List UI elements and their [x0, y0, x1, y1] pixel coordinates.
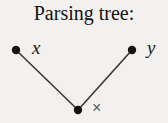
node-operator-root-dot — [74, 106, 82, 114]
edge-root-to-right-operand — [78, 50, 132, 110]
node-label-left-operand: x — [32, 38, 40, 57]
parsing-tree-figure: Parsing tree: x y × — [0, 0, 168, 123]
node-right-operand-dot — [128, 46, 136, 54]
parsing-tree-graph — [0, 0, 168, 123]
node-label-right-operand: y — [147, 38, 155, 57]
node-label-operator-root: × — [92, 100, 101, 116]
edge-root-to-left-operand — [16, 50, 78, 110]
node-left-operand-dot — [12, 46, 20, 54]
